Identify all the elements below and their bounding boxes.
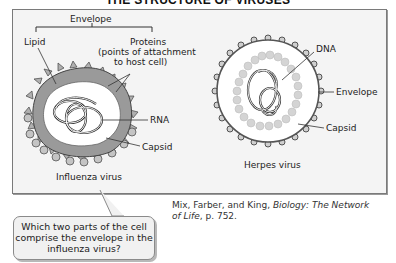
herpes-capsid-label: Capsid bbox=[326, 123, 356, 133]
envelope-bracket bbox=[36, 23, 152, 32]
rna-label: RNA bbox=[150, 115, 169, 125]
proteins-label: Proteins bbox=[130, 37, 166, 47]
proteins-label-detail-2: to host cell) bbox=[114, 57, 167, 67]
envelope-bracket-label: Envelope bbox=[70, 14, 112, 24]
proteins-label-detail-1: (points of attachment bbox=[98, 47, 196, 57]
dna-label: DNA bbox=[316, 44, 336, 54]
herpes-envelope-label: Envelope bbox=[336, 87, 378, 97]
influenza-caption: Influenza virus bbox=[56, 172, 122, 182]
citation-page: , p. 752. bbox=[200, 211, 237, 221]
citation-title-1: Biology: The Network bbox=[273, 200, 369, 210]
lipid-label: Lipid bbox=[24, 37, 45, 47]
question-callout: Which two parts of the cell comprise the… bbox=[13, 216, 155, 260]
source-citation: Mix, Farber, and King, Biology: The Netw… bbox=[172, 200, 392, 222]
callout-pointer bbox=[100, 190, 124, 216]
influenza-capsid-label: Capsid bbox=[142, 142, 172, 152]
herpes-caption: Herpes virus bbox=[244, 160, 301, 170]
citation-authors: Mix, Farber, and King, bbox=[172, 200, 273, 210]
citation-title-2: of Life bbox=[172, 211, 200, 221]
